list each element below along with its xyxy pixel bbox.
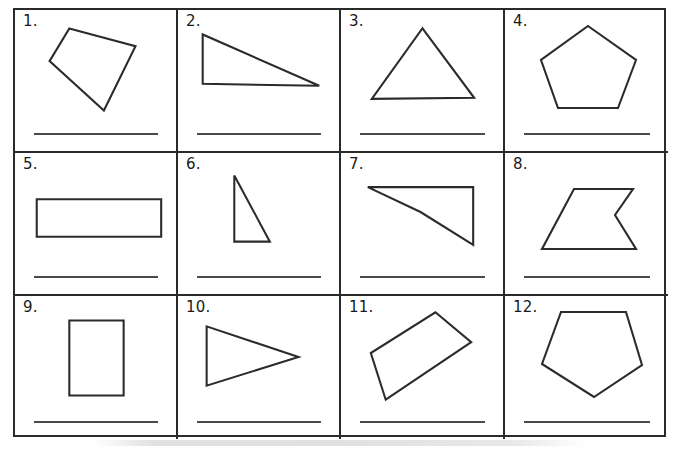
answer-line[interactable]: [524, 276, 650, 278]
worksheet-cell: 8.: [505, 153, 668, 296]
polygon-figure: [15, 16, 176, 124]
polygon-figure: [15, 159, 176, 267]
answer-line[interactable]: [524, 133, 650, 135]
polygon-figure: [505, 159, 668, 267]
polygon-outline: [50, 29, 136, 111]
polygon-figure: [505, 16, 668, 124]
polygon-outline: [541, 26, 636, 108]
page-edge-smudge: [95, 440, 585, 446]
worksheet-cell: 5.: [15, 153, 178, 296]
worksheet-cell: 1.: [15, 10, 178, 153]
polygon-figure: [341, 159, 503, 267]
answer-line[interactable]: [34, 133, 158, 135]
answer-line[interactable]: [360, 421, 485, 423]
answer-line[interactable]: [197, 133, 321, 135]
polygon-outline: [69, 320, 123, 395]
answer-line[interactable]: [360, 133, 485, 135]
worksheet-cell: 9.: [15, 296, 178, 439]
answer-line[interactable]: [197, 276, 321, 278]
polygon-figure: [505, 302, 668, 410]
answer-line[interactable]: [34, 421, 158, 423]
polygon-outline: [234, 175, 270, 241]
answer-line[interactable]: [34, 276, 158, 278]
polygon-outline: [371, 312, 471, 399]
polygon-figure: [178, 16, 339, 124]
worksheet-cell: 2.: [178, 10, 341, 153]
worksheet-cell: 12.: [505, 296, 668, 439]
worksheet-grid: 1.2.3.4.5.6.7.8.9.10.11.12.: [13, 8, 666, 437]
worksheet-cell: 10.: [178, 296, 341, 439]
polygon-outline: [372, 28, 474, 99]
polygon-outline: [37, 199, 161, 237]
polygon-outline: [207, 326, 299, 385]
polygon-figure: [341, 16, 503, 124]
worksheet-cell: 11.: [341, 296, 505, 439]
polygon-outline: [368, 187, 473, 245]
polygon-figure: [341, 302, 503, 410]
polygon-outline: [203, 34, 320, 85]
worksheet-cell: 4.: [505, 10, 668, 153]
polygon-outline: [542, 189, 636, 249]
polygon-outline: [542, 312, 642, 397]
polygon-figure: [178, 302, 339, 410]
answer-line[interactable]: [197, 421, 321, 423]
answer-line[interactable]: [360, 276, 485, 278]
worksheet-cell: 7.: [341, 153, 505, 296]
polygon-figure: [15, 302, 176, 410]
answer-line[interactable]: [524, 421, 650, 423]
worksheet-cell: 6.: [178, 153, 341, 296]
worksheet-cell: 3.: [341, 10, 505, 153]
worksheet-page: 1.2.3.4.5.6.7.8.9.10.11.12.: [0, 0, 679, 451]
polygon-figure: [178, 159, 339, 267]
